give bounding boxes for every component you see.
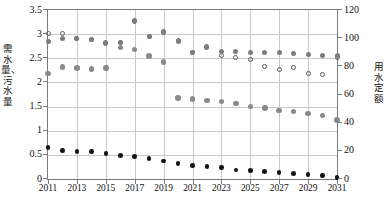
data-point: [161, 159, 166, 164]
y-axis-right-tick-mark: [338, 65, 342, 66]
data-point: [74, 65, 80, 71]
data-point: [262, 105, 268, 111]
data-point: [60, 36, 65, 41]
chart-figure: 需水量、污水量 用水定额 00.511.522.533.502040608010…: [0, 0, 389, 215]
y-axis-left-tick-label: 2.5: [12, 52, 42, 63]
data-point: [234, 168, 239, 173]
y-axis-left-tick-label: 1: [12, 124, 42, 135]
y-axis-right-tick-label: 40: [344, 116, 374, 127]
gridline-vertical: [164, 10, 165, 179]
data-point: [132, 47, 138, 53]
data-point: [262, 169, 267, 174]
data-point: [190, 163, 195, 168]
data-point: [233, 49, 238, 54]
x-axis-tick-mark: [250, 180, 251, 184]
y-axis-right-tick-mark: [338, 9, 342, 10]
y-axis-left-tick-mark: [43, 81, 47, 82]
plot-area: [47, 9, 338, 180]
data-point: [204, 45, 209, 50]
data-point: [291, 171, 296, 176]
data-point: [277, 67, 282, 72]
y-axis-right-tick-mark: [338, 178, 342, 179]
data-point: [248, 168, 253, 173]
x-axis-tick-mark: [221, 180, 222, 184]
y-axis-right-tick-mark: [338, 94, 342, 95]
data-point: [190, 50, 195, 55]
x-axis-tick-mark: [106, 180, 107, 184]
data-point: [176, 39, 181, 44]
y-axis-right-tick-mark: [338, 122, 342, 123]
y-axis-left-tick-mark: [43, 33, 47, 34]
y-axis-right-tick-label: 20: [344, 144, 374, 155]
data-point: [89, 66, 95, 72]
data-point: [103, 65, 109, 71]
x-axis-tick-mark: [135, 180, 136, 184]
data-point: [320, 113, 326, 119]
data-point: [176, 161, 181, 166]
x-axis-tick-mark: [77, 180, 78, 184]
data-point: [219, 49, 224, 54]
x-axis-tick-mark: [164, 180, 165, 184]
data-point: [306, 71, 311, 76]
y-axis-left-tick-mark: [43, 9, 47, 10]
data-point: [132, 154, 137, 159]
data-point: [204, 98, 210, 104]
data-point: [291, 65, 296, 70]
data-point: [89, 37, 94, 42]
y-axis-left-tick-mark: [43, 130, 47, 131]
data-point: [306, 172, 311, 177]
data-point: [118, 45, 124, 51]
y-axis-right-tick-label: 120: [344, 4, 374, 15]
data-point: [46, 145, 51, 150]
data-point: [233, 55, 238, 60]
data-point: [75, 149, 80, 154]
data-point: [45, 71, 51, 77]
y-axis-right-tick-label: 60: [344, 88, 374, 99]
data-point: [320, 173, 325, 178]
y-axis-right-tick-mark: [338, 150, 342, 151]
data-point: [89, 149, 94, 154]
data-point: [190, 96, 196, 102]
data-point: [233, 101, 239, 107]
data-point: [175, 95, 181, 101]
y-axis-right-tick-mark: [338, 37, 342, 38]
data-point: [205, 164, 210, 169]
data-point: [248, 104, 254, 110]
y-axis-left-tick-label: 0.5: [12, 148, 42, 159]
data-point: [305, 111, 311, 117]
data-point: [161, 59, 167, 65]
gridline-vertical: [308, 10, 309, 179]
x-axis-tick-mark: [337, 180, 338, 184]
gridline-vertical: [279, 10, 280, 179]
data-point: [277, 170, 282, 175]
y-axis-left-tick-mark: [43, 106, 47, 107]
data-point: [306, 52, 311, 57]
y-axis-right-tick-label: 100: [344, 32, 374, 43]
data-point: [104, 151, 109, 156]
data-point: [291, 51, 296, 56]
data-point: [262, 50, 267, 55]
data-point: [118, 153, 123, 158]
data-point: [147, 34, 152, 39]
x-axis-tick-mark: [279, 180, 280, 184]
data-point: [146, 53, 152, 59]
data-point: [320, 72, 325, 77]
data-point: [219, 99, 225, 105]
y-axis-left-tick-mark: [43, 154, 47, 155]
data-point: [219, 165, 224, 170]
data-point: [46, 39, 51, 44]
y-axis-left-tick-label: 1.5: [12, 100, 42, 111]
data-point: [248, 57, 253, 62]
data-point: [248, 50, 253, 55]
y-axis-left-tick-label: 2: [12, 76, 42, 87]
data-point: [60, 148, 65, 153]
x-axis-tick-mark: [193, 180, 194, 184]
gridline-vertical: [221, 10, 222, 179]
data-point: [262, 64, 267, 69]
data-point: [60, 64, 66, 70]
x-axis-tick-mark: [48, 180, 49, 184]
data-point: [276, 108, 282, 114]
data-point: [147, 156, 152, 161]
y-axis-left-tick-mark: [43, 57, 47, 58]
gridline-vertical: [193, 10, 194, 179]
